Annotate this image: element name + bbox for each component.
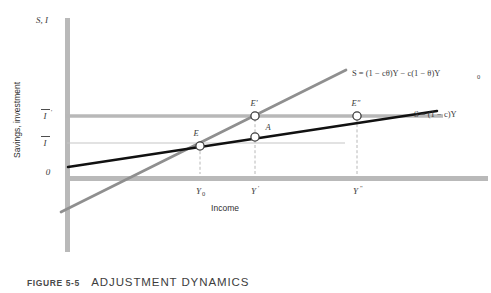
x-tick-Ydoubleprime: Y " xyxy=(353,184,363,196)
equation-label-flat-text: S = (1 − c)Y xyxy=(414,109,457,119)
y-tick-ibar-prime-mark: ' xyxy=(51,108,52,115)
x-tick-Y0-subscript: 0 xyxy=(202,190,205,197)
x-tick-Yprime: Y ' xyxy=(251,184,259,196)
equation-label-steep: S = (1 − cθ)Y − c(1 − θ)Y 0 xyxy=(352,68,480,80)
x-axis-title: Income xyxy=(211,203,239,213)
figure-caption-number: FIGURE 5-5 xyxy=(27,278,80,288)
point-E-prime-label: E' xyxy=(249,98,257,108)
adjustment-dynamics-chart: S, I Savings, investment Income I ' I 0 … xyxy=(0,0,491,293)
axis-corner-label: S, I xyxy=(36,15,49,25)
x-tick-Yprime-glyph: Y xyxy=(251,186,257,196)
point-E-label: E xyxy=(192,128,199,138)
point-E-double-prime-marker[interactable] xyxy=(353,112,361,120)
point-E-double-prime-label: E" xyxy=(351,98,361,108)
x-tick-Ydoubleprime-mark: " xyxy=(360,184,363,191)
y-tick-zero: 0 xyxy=(46,167,51,177)
figure-caption-title: ADJUSTMENT DYNAMICS xyxy=(91,276,249,288)
point-E-prime-marker[interactable] xyxy=(251,112,259,120)
equation-label-steep-text: S = (1 − cθ)Y − c(1 − θ)Y xyxy=(352,68,440,78)
x-tick-Yprime-mark: ' xyxy=(258,184,259,191)
figure-caption: FIGURE 5-5 ADJUSTMENT DYNAMICS xyxy=(27,272,249,290)
y-axis-title: Savings, investment xyxy=(12,81,22,158)
x-tick-Y0: Y 0 xyxy=(196,186,205,197)
x-tick-Ydoubleprime-glyph: Y xyxy=(353,186,359,196)
figure-container: S, I Savings, investment Income I ' I 0 … xyxy=(0,0,491,293)
y-tick-ibar-prime: I ' xyxy=(41,108,52,121)
equation-label-steep-subscript: 0 xyxy=(477,73,480,80)
y-tick-ibar-prime-glyph: I xyxy=(43,111,48,121)
y-tick-ibar: I xyxy=(41,137,50,149)
point-A-label: A xyxy=(264,122,271,132)
point-E-marker[interactable] xyxy=(196,142,204,150)
y-tick-ibar-glyph: I xyxy=(43,138,48,148)
point-A-marker[interactable] xyxy=(251,133,259,141)
